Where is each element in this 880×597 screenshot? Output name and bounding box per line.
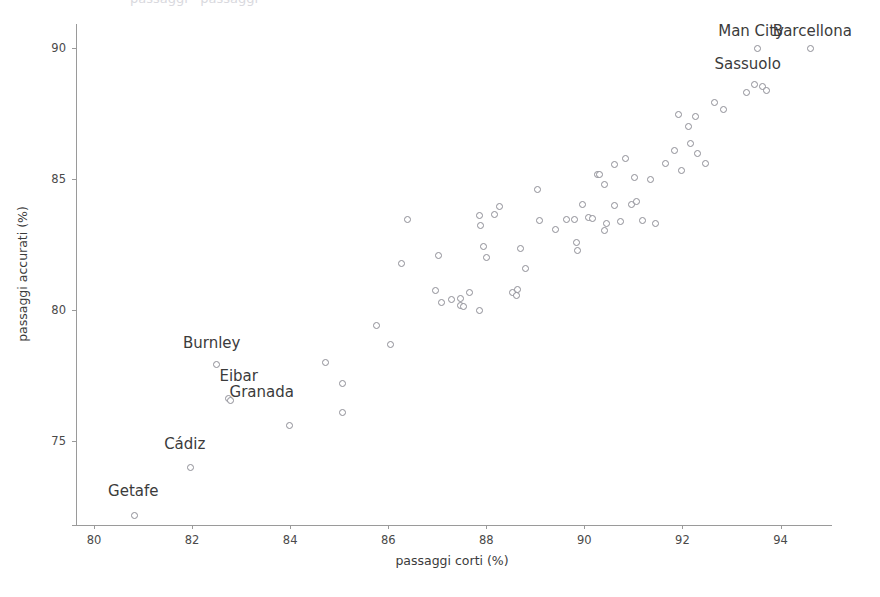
data-point[interactable] xyxy=(432,287,439,294)
data-point[interactable] xyxy=(671,147,678,154)
scatter-plot-figure: passaggi · passaggi 80828486889092947580… xyxy=(0,0,880,597)
data-point[interactable] xyxy=(404,216,411,223)
data-point[interactable] xyxy=(213,361,220,368)
data-point[interactable] xyxy=(322,359,329,366)
data-point[interactable] xyxy=(662,160,669,167)
data-point[interactable] xyxy=(339,409,346,416)
data-point[interactable] xyxy=(373,322,380,329)
data-point[interactable] xyxy=(483,254,490,261)
data-point[interactable] xyxy=(227,397,234,404)
data-point[interactable] xyxy=(514,286,521,293)
data-point[interactable] xyxy=(574,247,581,254)
data-point[interactable] xyxy=(647,176,654,183)
data-point[interactable] xyxy=(536,217,543,224)
data-point[interactable] xyxy=(754,45,761,52)
data-point[interactable] xyxy=(596,171,603,178)
data-point[interactable] xyxy=(398,260,405,267)
data-point[interactable] xyxy=(552,226,559,233)
data-point[interactable] xyxy=(652,220,659,227)
data-point[interactable] xyxy=(633,198,640,205)
data-point[interactable] xyxy=(751,81,758,88)
data-point[interactable] xyxy=(534,186,541,193)
data-point[interactable] xyxy=(685,123,692,130)
data-point[interactable] xyxy=(631,174,638,181)
data-point[interactable] xyxy=(513,292,520,299)
data-point[interactable] xyxy=(622,155,629,162)
data-point[interactable] xyxy=(639,217,646,224)
data-point[interactable] xyxy=(601,227,608,234)
data-point[interactable] xyxy=(687,140,694,147)
data-point[interactable] xyxy=(611,202,618,209)
data-point[interactable] xyxy=(448,296,455,303)
data-point[interactable] xyxy=(571,216,578,223)
data-point[interactable] xyxy=(711,99,718,106)
data-points-layer xyxy=(0,0,880,597)
data-point[interactable] xyxy=(466,289,473,296)
data-point[interactable] xyxy=(563,216,570,223)
data-point[interactable] xyxy=(476,307,483,314)
data-point[interactable] xyxy=(522,265,529,272)
data-point[interactable] xyxy=(675,111,682,118)
data-point[interactable] xyxy=(743,89,750,96)
data-point[interactable] xyxy=(477,222,484,229)
data-point[interactable] xyxy=(480,243,487,250)
data-point[interactable] xyxy=(339,380,346,387)
data-point[interactable] xyxy=(187,464,194,471)
data-point[interactable] xyxy=(460,303,467,310)
data-point[interactable] xyxy=(438,299,445,306)
data-point[interactable] xyxy=(589,215,596,222)
data-point[interactable] xyxy=(678,167,685,174)
data-point[interactable] xyxy=(702,160,709,167)
data-point[interactable] xyxy=(579,201,586,208)
data-point[interactable] xyxy=(517,245,524,252)
data-point[interactable] xyxy=(611,161,618,168)
data-point[interactable] xyxy=(807,45,814,52)
data-point[interactable] xyxy=(573,239,580,246)
data-point[interactable] xyxy=(476,212,483,219)
data-point[interactable] xyxy=(617,218,624,225)
data-point[interactable] xyxy=(131,512,138,519)
data-point[interactable] xyxy=(496,203,503,210)
data-point[interactable] xyxy=(763,87,770,94)
data-point[interactable] xyxy=(694,150,701,157)
data-point[interactable] xyxy=(692,113,699,120)
data-point[interactable] xyxy=(286,422,293,429)
data-point[interactable] xyxy=(601,181,608,188)
data-point[interactable] xyxy=(491,211,498,218)
data-point[interactable] xyxy=(720,106,727,113)
data-point[interactable] xyxy=(435,252,442,259)
data-point[interactable] xyxy=(387,341,394,348)
